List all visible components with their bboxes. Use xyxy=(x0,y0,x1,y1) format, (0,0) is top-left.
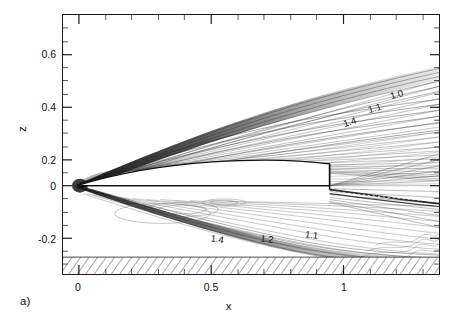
y-axis-label: z xyxy=(16,126,28,132)
ytick-label-4: -0.2 xyxy=(18,233,56,245)
figure-panel-a: 1.0 1.1 1.4 1.4 1.2 1.1 xyxy=(0,0,457,322)
ytick-label-3: 0 xyxy=(22,180,56,192)
contour-label-1-1-lower: 1.1 xyxy=(304,228,318,241)
panel-label: a) xyxy=(20,295,30,307)
contour-label-1-4-lower: 1.4 xyxy=(210,232,225,245)
xtick-label-1: 0.5 xyxy=(204,281,219,293)
ytick-label-1: 0.4 xyxy=(22,101,56,113)
contour-plot-canvas: 1.0 1.1 1.4 1.4 1.2 1.1 xyxy=(63,15,439,274)
x-axis-label: x xyxy=(0,300,457,312)
ytick-label-0: 0.6 xyxy=(22,48,56,60)
contour-label-1-4-upper: 1.4 xyxy=(342,115,358,129)
contour-label-1-0: 1.0 xyxy=(389,87,405,101)
plot-frame: 1.0 1.1 1.4 1.4 1.2 1.1 xyxy=(62,14,440,275)
contour-label-1-2-lower: 1.2 xyxy=(260,232,275,245)
contour-label-1-1-upper: 1.1 xyxy=(367,101,383,115)
xtick-label-0: 0 xyxy=(75,281,81,293)
hatched-wall-band xyxy=(63,257,439,274)
ytick-label-2: 0.2 xyxy=(22,154,56,166)
xtick-label-2: 1 xyxy=(341,281,347,293)
